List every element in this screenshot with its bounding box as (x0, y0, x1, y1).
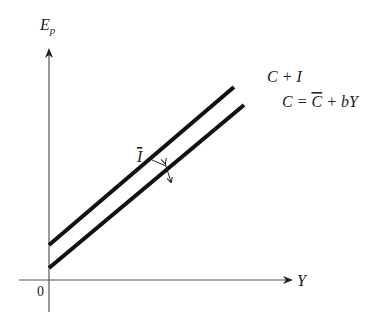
origin-label: 0 (37, 284, 44, 299)
keynesian-cross-diagram: Ep Y 0 C + I C = C + bY I (0, 0, 373, 324)
y-axis-label: Ep (39, 16, 56, 36)
investment-gap-label: I (136, 148, 143, 165)
c-plus-i-label: C + I (267, 68, 302, 85)
gap-arrow-leader (152, 160, 166, 166)
x-axis-label: Y (297, 272, 308, 289)
c-bar: C (311, 93, 322, 110)
consumption-function-label: C = C + bY (282, 93, 360, 110)
consumption-line (49, 105, 244, 268)
c-plus-i-line (49, 87, 234, 245)
